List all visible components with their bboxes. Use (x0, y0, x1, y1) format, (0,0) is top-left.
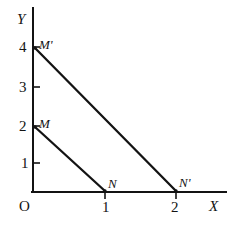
graph-canvas (0, 0, 243, 232)
x-tick-label-2: 2 (171, 200, 179, 215)
x-axis-label: X (209, 199, 218, 214)
y-axis-label: Y (17, 12, 25, 27)
point-n (103, 189, 106, 192)
budget-line-figure: Y X O 4 3 2 1 1 2 M' M N N' (0, 0, 243, 232)
point-label-n: N (108, 177, 117, 190)
point-label-m: M (39, 117, 50, 130)
x-tick-label-1: 1 (102, 200, 110, 215)
line-m-prime-n-prime (35, 48, 176, 191)
point-m-prime (33, 46, 36, 49)
origin-label: O (19, 199, 30, 214)
y-tick-label-1: 1 (21, 156, 29, 171)
y-tick-label-3: 3 (19, 80, 27, 95)
y-tick-label-4: 4 (19, 40, 27, 55)
point-label-m-prime: M' (39, 38, 53, 51)
point-n-prime (174, 189, 177, 192)
y-tick-label-2: 2 (19, 119, 27, 134)
point-label-n-prime: N' (179, 176, 190, 189)
point-m (33, 125, 36, 128)
line-m-n (35, 127, 105, 191)
